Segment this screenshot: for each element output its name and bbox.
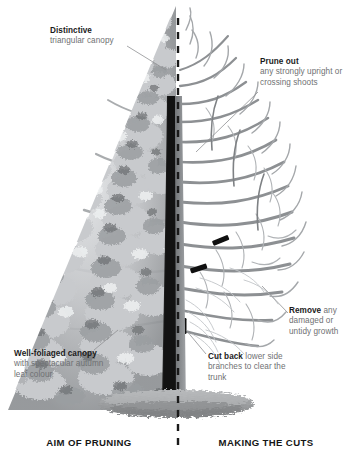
mulch-mound (98, 390, 254, 418)
label-prune-out-body: any strongly upright or crossing shoots (260, 67, 342, 86)
caption-making-the-cuts: MAKING THE CUTS (178, 437, 354, 448)
cut-mark-1 (212, 235, 230, 246)
label-well-foliaged-head: Well-foliaged canopy (14, 349, 97, 358)
label-remove: Remove any damaged or untidy growth (289, 306, 353, 337)
label-prune-out: Prune out any strongly upright or crossi… (260, 57, 352, 88)
cut-mark-2 (190, 263, 208, 273)
label-distinctive: Distinctive triangular canopy (50, 26, 160, 47)
label-well-foliaged: Well-foliaged canopy with spectacular au… (14, 349, 104, 380)
caption-aim-of-pruning: AIM OF PRUNING (0, 437, 178, 448)
label-cut-back-head: Cut back (208, 352, 243, 361)
label-distinctive-head: Distinctive (50, 26, 160, 36)
leader-remove (262, 286, 288, 313)
label-distinctive-body: triangular canopy (50, 36, 114, 45)
illustration-canvas: Distinctive triangular canopy Prune out … (0, 0, 354, 470)
label-remove-head: Remove (289, 306, 321, 315)
label-well-foliaged-body: with spectacular autumn leaf colour (14, 359, 103, 378)
label-cut-back: Cut back lower side branches to clear th… (208, 352, 302, 383)
label-prune-out-head: Prune out (260, 57, 352, 67)
